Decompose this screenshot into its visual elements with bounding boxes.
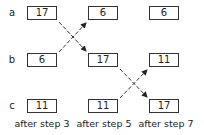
caption-step5: after step 5 [73,118,135,129]
swap-arrows [0,0,204,135]
swap-arrow-a-b [59,22,86,52]
caption-step7: after step 7 [135,118,197,129]
caption-step3: after step 3 [11,118,73,129]
swap-arrow-b-c [120,69,147,98]
